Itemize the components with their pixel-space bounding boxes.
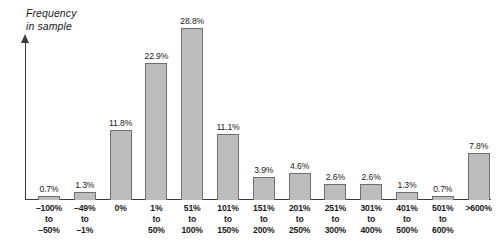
- bar-group: 0.7%: [425, 20, 461, 200]
- bar-value-label: 2.6%: [353, 172, 389, 182]
- bar-value-label: 11.1%: [210, 122, 246, 132]
- bar-value-label: 11.8%: [103, 118, 139, 128]
- bar-group: 7.8%: [461, 20, 496, 200]
- x-tick-label: >600%: [457, 203, 496, 214]
- bar: [217, 134, 239, 200]
- bar-group: 4.6%: [282, 20, 318, 200]
- bar-value-label: 7.8%: [461, 141, 496, 151]
- bar-value-label: 1.3%: [389, 180, 425, 190]
- bar-chart: Frequency in sample 0.7%1.3%11.8%22.9%28…: [0, 0, 496, 249]
- bar-value-label: 28.8%: [174, 16, 210, 26]
- bar-group: 11.1%: [210, 20, 246, 200]
- bar: [38, 196, 60, 200]
- bar-value-label: 0.7%: [31, 184, 67, 194]
- bar-group: 22.9%: [138, 20, 174, 200]
- bar-value-label: 0.7%: [425, 184, 461, 194]
- bar: [253, 177, 275, 200]
- bar-value-label: 4.6%: [282, 161, 318, 171]
- bar: [289, 173, 311, 200]
- x-axis-tick-labels: –100% to –50%–49% to –1%0%1% to 50%51% t…: [25, 203, 491, 247]
- bar: [110, 130, 132, 200]
- bar-group: 11.8%: [103, 20, 139, 200]
- bar: [181, 28, 203, 200]
- bar-group: 2.6%: [317, 20, 353, 200]
- bar-group: 2.6%: [353, 20, 389, 200]
- bar: [468, 153, 490, 200]
- bar: [360, 184, 382, 200]
- bar-group: 1.3%: [67, 20, 103, 200]
- bar-value-label: 22.9%: [138, 51, 174, 61]
- bar-value-label: 1.3%: [67, 180, 103, 190]
- bar: [324, 184, 346, 200]
- bar-group: 0.7%: [31, 20, 67, 200]
- bar-value-label: 3.9%: [246, 165, 282, 175]
- plot-area: 0.7%1.3%11.8%22.9%28.8%11.1%3.9%4.6%2.6%…: [25, 20, 491, 200]
- bar: [396, 192, 418, 200]
- bar-value-label: 2.6%: [317, 172, 353, 182]
- bar: [145, 63, 167, 200]
- bar-group: 3.9%: [246, 20, 282, 200]
- bar-group: 28.8%: [174, 20, 210, 200]
- bar-group: 1.3%: [389, 20, 425, 200]
- bar: [74, 192, 96, 200]
- bar: [432, 196, 454, 200]
